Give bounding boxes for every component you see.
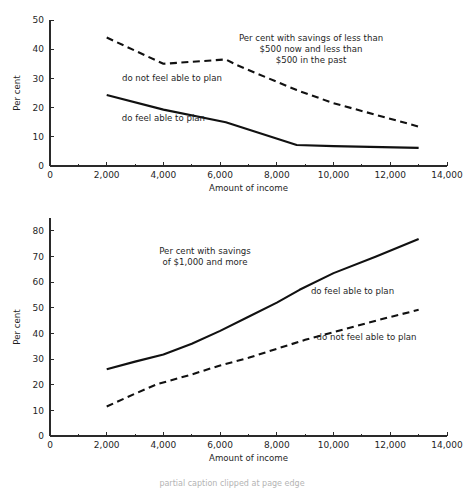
x-tick-label: 6,000 xyxy=(207,440,233,450)
clipped-caption-text: partial caption clipped at page edge xyxy=(0,478,464,489)
y-tick-label: 50 xyxy=(33,15,45,25)
x-tick-label: 4,000 xyxy=(151,440,177,450)
series-label: do not feel able to plan xyxy=(122,73,222,83)
x-tick-label: 0 xyxy=(47,440,53,450)
x-tick-label: 14,000 xyxy=(431,170,463,180)
y-tick-label-zero: 0 xyxy=(38,431,44,441)
chart-panel-bottom: 02,0004,0006,0008,00010,00012,00014,0001… xyxy=(0,200,464,470)
x-tick-label: 10,000 xyxy=(318,170,350,180)
y-tick-label: 0 xyxy=(38,161,44,171)
series-label: do feel able to plan xyxy=(311,286,394,296)
x-tick-label: 6,000 xyxy=(207,170,233,180)
y-tick-label: 80 xyxy=(33,226,45,236)
x-tick-label: 2,000 xyxy=(94,440,120,450)
clipped-caption-strip: partial caption clipped at page edge xyxy=(0,478,464,489)
y-tick-label: 40 xyxy=(33,329,45,339)
y-tick-label: 50 xyxy=(33,303,45,313)
x-axis-title: Amount of income xyxy=(209,183,288,193)
y-tick-label: 20 xyxy=(33,103,45,113)
x-tick-label: 12,000 xyxy=(375,170,407,180)
y-tick-label: 70 xyxy=(33,252,45,262)
line-chart-savings-1000-and-more: 02,0004,0006,0008,00010,00012,00014,0001… xyxy=(0,200,464,470)
y-tick-label: 60 xyxy=(33,277,45,287)
x-tick-label: 4,000 xyxy=(151,170,177,180)
figure-two-line-charts: 02,0004,0006,0008,00010,00012,00014,0000… xyxy=(0,0,464,489)
y-axis-title: Per cent xyxy=(12,75,22,111)
x-tick-label: 0 xyxy=(47,170,53,180)
x-tick-label: 10,000 xyxy=(318,440,350,450)
chart-annotation-line: $500 now and less than xyxy=(260,44,363,54)
series-line-solid xyxy=(107,239,419,369)
series-line-dashed xyxy=(107,310,419,407)
x-tick-label: 14,000 xyxy=(431,440,463,450)
y-tick-label: 20 xyxy=(33,380,45,390)
x-tick-label: 8,000 xyxy=(264,440,290,450)
y-axis-title: Per cent xyxy=(12,309,22,345)
chart-annotation-line: of $1,000 and more xyxy=(163,257,248,267)
x-tick-label: 12,000 xyxy=(375,440,407,450)
x-tick-label: 8,000 xyxy=(264,170,290,180)
x-tick-label: 2,000 xyxy=(94,170,120,180)
chart-annotation-line: Per cent with savings of less than xyxy=(239,33,383,43)
line-chart-savings-less-than-500: 02,0004,0006,0008,00010,00012,00014,0000… xyxy=(0,0,464,200)
x-axis-title: Amount of income xyxy=(209,453,288,463)
y-tick-label: 10 xyxy=(33,132,45,142)
series-label: do not feel able to plan xyxy=(317,332,417,342)
y-tick-label: 30 xyxy=(33,74,45,84)
y-tick-label: 30 xyxy=(33,354,45,364)
y-tick-label: 40 xyxy=(33,44,45,54)
chart-annotation-line: $500 in the past xyxy=(276,55,347,65)
chart-panel-top: 02,0004,0006,0008,00010,00012,00014,0000… xyxy=(0,0,464,200)
y-tick-label: 10 xyxy=(33,406,45,416)
chart-annotation-line: Per cent with savings xyxy=(159,246,251,256)
series-label: do feel able to plan xyxy=(122,113,205,123)
